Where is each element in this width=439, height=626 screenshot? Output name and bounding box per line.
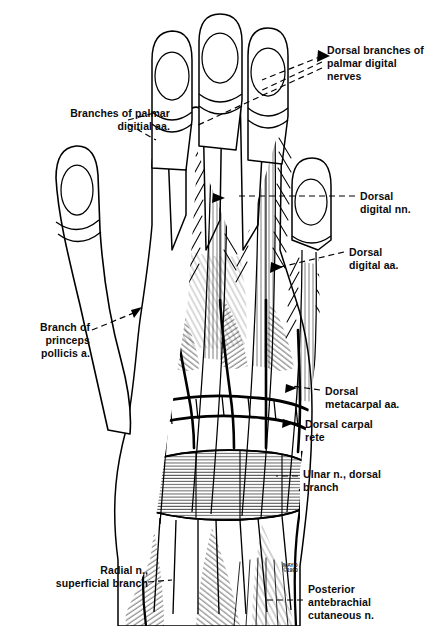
label-radial-n-superficial-branch: Radial n., superficial branch <box>0 564 148 590</box>
label-dorsal-branches-palmar-digital-nerves: Dorsal branches of palmar digital nerves <box>327 44 424 82</box>
label-posterior-antebrachial-cutaneous-n: Posterior antebrachial cutaneous n. <box>308 583 374 621</box>
label-branch-princeps-pollicis-a: Branch of princeps pollicis a. <box>0 321 90 359</box>
extensor-retinaculum <box>152 450 308 520</box>
label-dorsal-digital-nn: Dorsal digital nn. <box>360 190 411 216</box>
hand-dorsum-drawing <box>0 0 439 626</box>
label-dorsal-metacarpal-aa: Dorsal metacarpal aa. <box>325 385 399 411</box>
label-dorsal-digital-aa: Dorsal digital aa. <box>349 246 399 272</box>
label-dorsal-carpal-rete: Dorsal carpal rete <box>305 418 373 444</box>
mayo-copyright-watermark: MAYO ©1990 <box>283 563 298 574</box>
label-ulnar-n-dorsal-branch: Ulnar n., dorsal branch <box>303 468 381 494</box>
anatomical-illustration <box>0 0 439 626</box>
label-branches-palmar-digitial-aa: Branches of palmar digitial aa. <box>25 107 170 133</box>
